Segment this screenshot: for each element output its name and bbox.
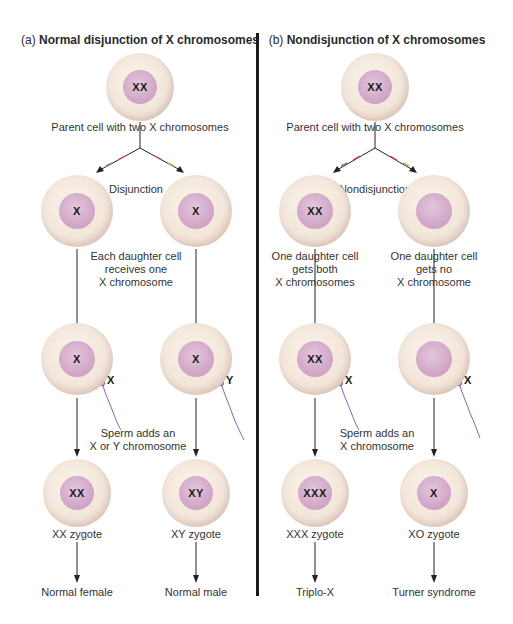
nucleus: XXX — [298, 476, 332, 510]
nucleus — [416, 341, 452, 377]
nucleus — [416, 193, 452, 229]
nucleus: XX — [123, 70, 157, 104]
panel-a-daughter-right-cell: X — [160, 175, 232, 247]
panel-a-zygote-right-caption: XY zygote — [171, 528, 221, 541]
panel-b-zygote-right-cell: X — [400, 459, 468, 527]
panel-b-sperm-caption: Sperm adds an X chromosome — [340, 427, 415, 453]
panel-b-zygote-left-cell: XXX — [281, 459, 349, 527]
panel-a-sperm-left-label: X — [107, 374, 114, 386]
panel-b-parent-caption: Parent cell with two X chromosomes — [286, 121, 463, 134]
zygote-to-outcome-arrows — [77, 542, 434, 578]
nucleus: XX — [297, 193, 333, 229]
panel-a-outcome-left: Normal female — [41, 586, 113, 599]
nucleus: X — [59, 341, 95, 377]
panel-b-daughter-left-cell: XX — [279, 175, 351, 247]
panel-b-sperm-left-label: X — [345, 374, 352, 386]
panel-b-outcome-right: Turner syndrome — [392, 586, 475, 599]
panel-b-zygote-right-caption: XO zygote — [408, 528, 459, 541]
nucleus: X — [178, 341, 214, 377]
panel-a-parent-cell: XX — [106, 53, 174, 121]
panel-b-daughter-right-cell — [398, 175, 470, 247]
panel-a-outcome-right: Normal male — [165, 586, 227, 599]
panel-a-zygote-left-caption: XX zygote — [52, 528, 102, 541]
nucleus: XX — [358, 70, 392, 104]
panel-b-daughter-right-caption: One daughter cell gets no X chromosome — [391, 250, 478, 289]
panel-a-parent-caption: Parent cell with two X chromosomes — [51, 121, 228, 134]
panel-b-branch-label: Nondisjunction — [339, 183, 411, 196]
panel-b-daughter-left-caption: One daughter cell gets both X chromosome… — [272, 250, 359, 289]
nucleus: X — [417, 476, 451, 510]
panel-a-daughter-left-cell: X — [41, 175, 113, 247]
panel-b-zygote-left-caption: XXX zygote — [286, 528, 343, 541]
nucleus: X — [178, 193, 214, 229]
panel-a-daughter-caption: Each daughter cell receives one X chromo… — [90, 250, 181, 289]
nucleus: XY — [179, 476, 213, 510]
nucleus: XX — [60, 476, 94, 510]
panel-a-sperm-caption: Sperm adds an X or Y chromosome — [90, 427, 187, 453]
panel-b-fert-left-cell: XX — [279, 323, 351, 395]
panel-a-sperm-right-label: Y — [226, 374, 233, 386]
nucleus: XX — [297, 341, 333, 377]
panel-a-zygote-right-cell: XY — [162, 459, 230, 527]
panel-b-fert-right-cell — [398, 323, 470, 395]
panel-b-outcome-left: Triplo-X — [296, 586, 334, 599]
panel-a-zygote-left-cell: XX — [43, 459, 111, 527]
nucleus: X — [59, 193, 95, 229]
panel-b-sperm-right-label: X — [464, 374, 471, 386]
panel-a-branch-label: Disjunction — [109, 183, 163, 196]
panel-a-fert-right-cell: X — [160, 323, 232, 395]
panel-b-parent-cell: XX — [341, 53, 409, 121]
panel-a-fert-left-cell: X — [41, 323, 113, 395]
